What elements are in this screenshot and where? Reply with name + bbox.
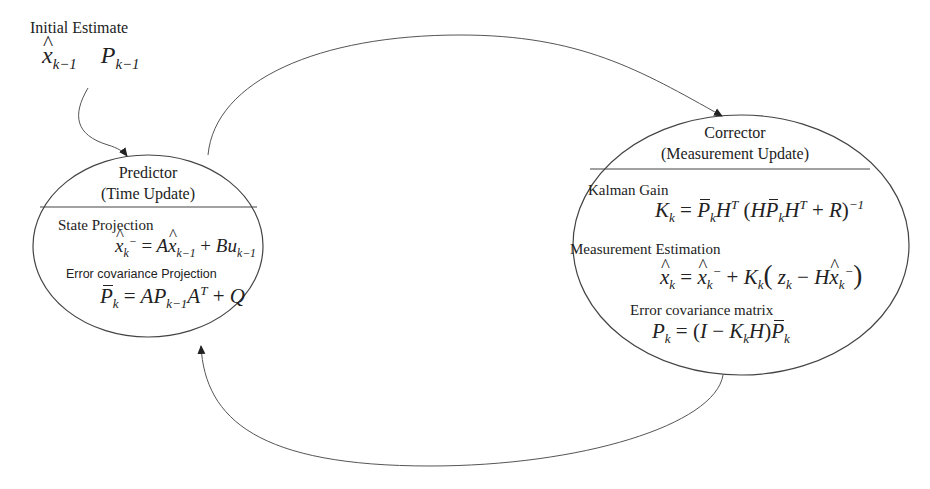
kalman-gain-label: Kalman Gain [588, 183, 668, 198]
error-covariance-projection-label: Error covariance Projection [66, 268, 217, 281]
edge-corrector-to-predictor [201, 346, 723, 466]
measurement-estimation-equation: xk = xk− + Kk( zk − Hxk−) [660, 262, 862, 289]
initial-state-subscript: k−1 [53, 56, 77, 72]
error-covariance-matrix-equation: Pk = (I − KkH)Pk [652, 321, 790, 342]
corrector-subtitle: (Measurement Update) [661, 146, 809, 162]
edge-predictor-to-corrector [208, 35, 722, 155]
edge-initial-to-predictor [79, 88, 127, 156]
predictor-subtitle: (Time Update) [101, 186, 195, 202]
initial-state-symbol: x [42, 43, 53, 67]
state-projection-equation: xk− = Axk−1 + Buk−1 [115, 236, 256, 255]
predictor-title: Predictor [119, 165, 178, 181]
initial-covariance-subscript: k−1 [115, 56, 139, 72]
initial-covariance-symbol: P [101, 42, 116, 68]
error-covariance-matrix-label: Error covariance matrix [630, 303, 773, 318]
kalman-gain-equation: Kk = PkHT (HPkHT + R)−1 [655, 200, 864, 221]
state-projection-label: State Projection [58, 218, 153, 233]
initial-estimate-values: xk−1 Pk−1 [42, 43, 139, 67]
corrector-title: Corrector [704, 125, 765, 141]
error-covariance-projection-equation: Pk = APk−1AT + Q [100, 286, 245, 307]
